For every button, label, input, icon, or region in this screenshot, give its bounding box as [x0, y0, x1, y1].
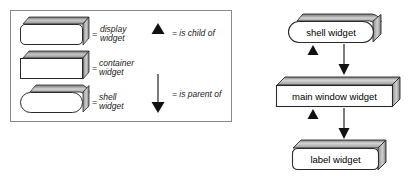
legend-equals-display: = [92, 29, 97, 39]
legend-shape-container-widget [21, 51, 90, 79]
legend-label-container-widget-line2: widget [99, 68, 124, 78]
edge-glyph-label-is-child-of-main-window [308, 109, 319, 119]
legend-shape-display-widget [21, 17, 90, 45]
legend-glyph-is-child-of [152, 23, 165, 34]
legend-equals-container: = [92, 63, 97, 73]
diagram-canvas: = display widget = container widget = sh… [0, 0, 412, 181]
hierarchy-node-label-label-widget: label widget [292, 154, 379, 165]
hierarchy-node-label-shell-widget: shell widget [288, 27, 374, 38]
edge-glyph-main-window-is-parent-of-label [339, 108, 350, 139]
legend-label-shell-widget-line2: widget [99, 102, 124, 112]
legend-equals-shell: = [92, 97, 97, 107]
hierarchy-node-label-main-window-widget: main window widget [276, 91, 393, 102]
legend-label-is-child-of: = is child of [172, 29, 215, 39]
legend-shape-shell-widget [21, 85, 90, 113]
edge-glyph-main-window-is-child-of-shell [308, 45, 319, 55]
edge-glyph-shell-is-parent-of-main-window [339, 44, 350, 75]
legend-label-is-parent-of: = is parent of [172, 90, 221, 100]
legend-label-display-widget-line2: widget [100, 34, 125, 44]
legend-glyph-is-parent-of [152, 74, 165, 113]
